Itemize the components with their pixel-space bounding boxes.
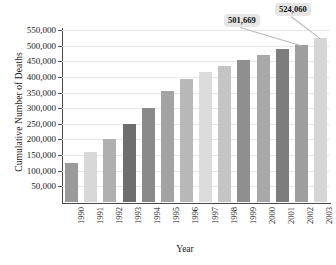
x-axis-tick-label: 1996 <box>190 207 200 224</box>
y-axis-tick-label: 550,000 <box>27 25 56 35</box>
data-label-callout: 501,669 <box>224 14 260 27</box>
x-axis-tick-label: 2003 <box>324 207 334 224</box>
y-axis-tick-label: 200,000 <box>27 134 56 144</box>
bar <box>123 124 136 202</box>
y-axis-tick <box>58 155 62 156</box>
y-axis-tick-label: 100,000 <box>27 166 56 176</box>
x-axis-tick-label: 1994 <box>152 207 162 224</box>
x-axis-tick-label: 2002 <box>305 207 315 224</box>
x-axis-tick-label: 1995 <box>171 207 181 224</box>
bar <box>276 49 289 202</box>
y-axis-tick <box>58 46 62 47</box>
bar <box>218 66 231 202</box>
x-axis-tick-label: 2000 <box>267 207 277 224</box>
x-axis-tick-label: 1990 <box>76 207 86 224</box>
x-axis-tick-label: 1997 <box>210 207 220 224</box>
y-axis-tick-label: 150,000 <box>27 150 56 160</box>
gridline <box>62 61 330 62</box>
gridline <box>62 30 330 31</box>
bar <box>103 139 116 202</box>
y-axis-tick <box>58 186 62 187</box>
x-axis-tick-label: 1991 <box>95 207 105 224</box>
gridline <box>62 124 330 125</box>
bar <box>295 45 308 202</box>
y-axis-title: Cumulative Number of Deaths <box>14 17 24 207</box>
gridline <box>62 77 330 78</box>
x-axis-tick-label: 1992 <box>114 207 124 224</box>
y-axis-tick-label: 300,000 <box>27 103 56 113</box>
gridline <box>62 108 330 109</box>
gridline <box>62 171 330 172</box>
y-axis-tick <box>58 30 62 31</box>
y-axis-tick <box>58 124 62 125</box>
x-axis-tick-label: 1999 <box>248 207 258 224</box>
x-axis-title: Year <box>0 244 336 254</box>
y-axis-tick <box>58 93 62 94</box>
bar <box>257 55 270 202</box>
bar-chart: Cumulative Number of Deaths 550,000500,0… <box>0 0 336 265</box>
y-axis-tick <box>58 77 62 78</box>
y-axis-tick <box>58 108 62 109</box>
gridline <box>62 186 330 187</box>
bar <box>84 152 97 202</box>
y-axis-tick <box>58 139 62 140</box>
gridline <box>62 155 330 156</box>
y-axis-tick-label: 50,000 <box>31 181 56 191</box>
y-axis-tick-label: 450,000 <box>27 56 56 66</box>
y-axis-tick <box>58 61 62 62</box>
y-axis-tick-label: 500,000 <box>27 41 56 51</box>
data-label-callout: 524,060 <box>275 3 311 16</box>
bar <box>161 91 174 202</box>
y-axis-tick-label: 350,000 <box>27 88 56 98</box>
x-axis-tick-label: 1993 <box>133 207 143 224</box>
y-axis-tick <box>58 171 62 172</box>
x-axis-tick-label: 1998 <box>229 207 239 224</box>
bar <box>142 108 155 202</box>
y-axis-tick-label: 250,000 <box>27 119 56 129</box>
y-axis-tick-label: 400,000 <box>27 72 56 82</box>
plot-area: 550,000500,000450,000400,000350,000300,0… <box>62 30 330 202</box>
bar <box>314 38 327 202</box>
gridline <box>62 46 330 47</box>
bar <box>180 79 193 202</box>
x-axis-line <box>62 203 331 204</box>
bar <box>199 72 212 202</box>
x-axis-tick-label: 2001 <box>286 207 296 224</box>
gridline <box>62 139 330 140</box>
gridline <box>62 93 330 94</box>
bar <box>237 60 250 202</box>
bar <box>65 163 78 202</box>
